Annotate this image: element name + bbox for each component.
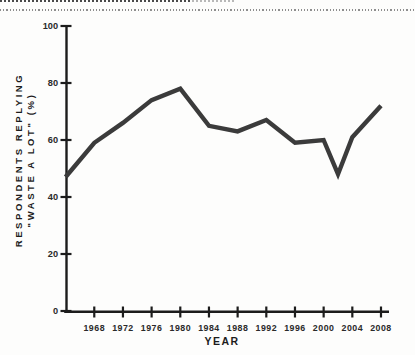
line-chart: 0204060801001968197219761980198419881992… — [0, 0, 415, 355]
x-axis-title: YEAR — [204, 335, 239, 347]
x-tick-label: 2000 — [313, 323, 335, 333]
x-tick-label: 1972 — [112, 323, 134, 333]
x-tick-label: 1984 — [198, 323, 220, 333]
data-line — [66, 89, 381, 177]
x-tick-label: 2008 — [370, 323, 392, 333]
x-tick-label: 1968 — [83, 323, 105, 333]
y-tick-label: 80 — [48, 78, 58, 88]
y-axis-title-line1: RESPONDENTS REPLYING — [13, 73, 24, 248]
y-tick-label: 0 — [53, 306, 58, 316]
x-tick-label: 1980 — [169, 323, 191, 333]
chart-canvas: 0204060801001968197219761980198419881992… — [0, 0, 415, 355]
x-tick-label: 2004 — [342, 323, 364, 333]
y-tick-label: 40 — [48, 192, 58, 202]
x-tick-label: 1988 — [227, 323, 249, 333]
x-tick-label: 1992 — [256, 323, 278, 333]
x-tick-label: 1996 — [284, 323, 306, 333]
y-tick-label: 60 — [48, 135, 58, 145]
x-tick-label: 1976 — [141, 323, 163, 333]
y-axis-title-line2: "WASTE A LOT" (%) — [25, 93, 36, 228]
y-tick-label: 20 — [48, 249, 58, 259]
y-tick-label: 100 — [43, 21, 58, 31]
